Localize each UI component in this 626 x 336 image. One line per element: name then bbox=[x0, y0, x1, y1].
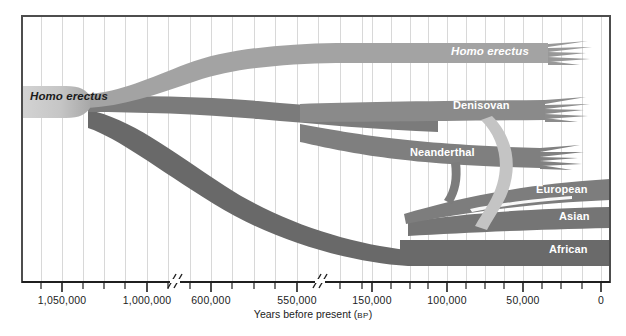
x-axis-title-bp: BP bbox=[357, 311, 368, 320]
x-axis-title-text: Years before present ( bbox=[254, 308, 358, 320]
x-axis-major-ticks bbox=[62, 282, 601, 292]
x-axis-title-close: ) bbox=[369, 308, 373, 320]
x-tick-label-550000: 550,000 bbox=[277, 294, 316, 306]
x-tick-label-50000: 50,000 bbox=[506, 294, 539, 306]
x-tick-label-0: 0 bbox=[598, 294, 604, 306]
lineage-band-denisovan bbox=[300, 100, 545, 122]
x-tick-label-100000: 100,000 bbox=[427, 294, 466, 306]
lineage-band-african bbox=[400, 240, 610, 264]
x-tick-label-1050000: 1,050,000 bbox=[38, 294, 87, 306]
lineage-band-root-trunk bbox=[22, 86, 90, 118]
x-tick-label-150000: 150,000 bbox=[352, 294, 391, 306]
x-axis-title: Years before present (BP) bbox=[0, 308, 626, 320]
x-tick-label-1000000: 1,000,000 bbox=[123, 294, 172, 306]
phylogeny-figure: Homo erectus Homo erectus Denisovan Nean… bbox=[0, 0, 626, 336]
x-tick-label-600000: 600,000 bbox=[191, 294, 230, 306]
x-axis-minor-ticks bbox=[41, 282, 582, 289]
diagram-canvas bbox=[0, 0, 626, 336]
